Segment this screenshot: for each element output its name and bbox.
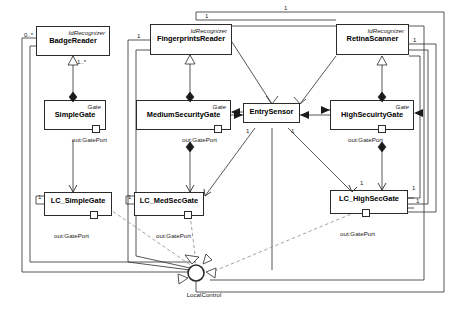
stereotype-label: Gate <box>331 101 413 110</box>
port-label-lc-high-sec-gate: out:GatePort <box>340 230 375 237</box>
port-high-security-gate[interactable] <box>378 125 386 133</box>
component-name: RetinaScanner <box>337 34 408 45</box>
multiplicity-fingerprints-left: 1 <box>137 33 140 39</box>
component-fingerprints-reader[interactable]: IdRecognizer FingerprintsReader <box>150 24 232 55</box>
component-name: BadgeReader <box>37 36 109 47</box>
uml-component-diagram: IdRecognizer BadgeReader IdRecognizer Fi… <box>0 0 466 309</box>
multiplicity-lc-simple: 1 <box>38 194 41 200</box>
component-high-security-gate[interactable]: Gate HighSecuirtyGate <box>330 100 414 130</box>
component-name: LC_MedSecGate <box>135 193 203 207</box>
port-label-simple-gate: out:GatePort <box>72 136 107 143</box>
multiplicity-lc-high-b: 1 <box>412 185 415 191</box>
multiplicity-badge-assoc: 0..* <box>24 32 33 38</box>
stereotype-label: IdRecognizer <box>337 25 408 34</box>
component-lc-simple-gate[interactable]: LC_SimpleGate <box>44 192 112 216</box>
component-name: LC_HighSecGate <box>331 191 407 205</box>
port-label-medium-security-gate: out:GatePort <box>182 136 217 143</box>
realize-lchigh-localcontrol <box>212 212 356 272</box>
port-medium-security-gate[interactable] <box>214 125 222 133</box>
multiplicity-entry-left: 1 <box>246 128 249 134</box>
component-name: EntrySensor <box>244 104 299 118</box>
link-fp-entry-diag <box>232 42 272 104</box>
component-lc-med-sec-gate[interactable]: LC_MedSecGate <box>134 192 204 216</box>
component-badge-reader[interactable]: IdRecognizer BadgeReader <box>36 26 110 56</box>
assoc-badge-inner <box>30 46 196 262</box>
component-name: MediumSecurityGate <box>137 110 230 121</box>
stereotype-label: Gate <box>137 101 230 110</box>
assoc-fp-top-route <box>210 26 424 280</box>
stereotype-label: IdRecognizer <box>151 25 231 34</box>
component-name: LC_SimpleGate <box>45 193 111 207</box>
multiplicity-fingerprints-top: 1 <box>205 13 208 19</box>
component-name: HighSecuirtyGate <box>331 110 413 121</box>
component-name: SimpleGate <box>45 110 105 121</box>
interface-label-local-control: LocalControl <box>174 291 234 298</box>
link-retina-entry-diag <box>300 56 336 104</box>
port-simple-gate[interactable] <box>92 125 100 133</box>
port-lc-high-sec-gate[interactable] <box>362 209 370 217</box>
multiplicity-entry-right: 1 <box>291 128 294 134</box>
multiplicity-lc-high-a: 1 <box>360 180 363 186</box>
multiplicity-retina-right: 1 <box>413 37 416 43</box>
stereotype-label: IdRecognizer <box>37 27 109 36</box>
multiplicity-lc-med: 1 <box>128 194 131 200</box>
multiplicity-badge-composition: 1..* <box>77 59 86 65</box>
port-lc-simple-gate[interactable] <box>90 211 98 219</box>
component-retina-scanner[interactable]: IdRecognizer RetinaScanner <box>336 24 409 55</box>
port-label-lc-med-sec-gate: out:GatePort <box>156 232 191 239</box>
stereotype-label: Gate <box>45 101 105 110</box>
multiplicity-lc-high-c: 1 <box>416 198 419 204</box>
port-label-high-security-gate: out:GatePort <box>348 136 383 143</box>
port-lc-med-sec-gate[interactable] <box>184 211 192 219</box>
component-entry-sensor[interactable]: EntrySensor <box>243 103 300 123</box>
fan-entry-lchigh <box>288 128 352 192</box>
multiplicity-retina-top: 1 <box>284 5 287 11</box>
component-name: FingerprintsReader <box>151 34 231 45</box>
port-label-lc-simple-gate: out:GatePort <box>54 232 89 239</box>
